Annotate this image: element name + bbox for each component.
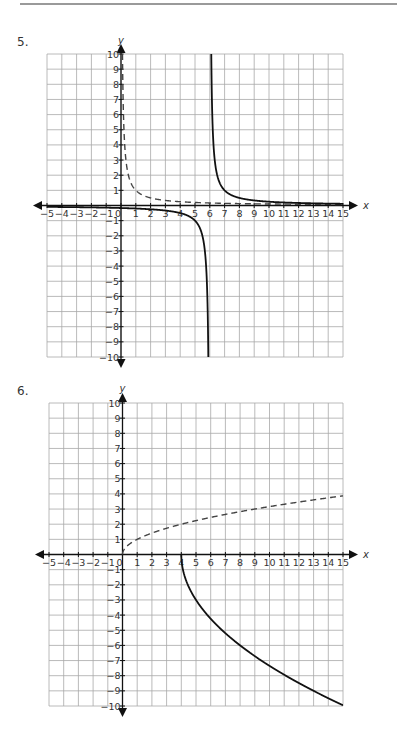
- svg-text:6: 6: [114, 458, 120, 469]
- svg-text:13: 13: [308, 557, 320, 568]
- svg-text:−6: −6: [106, 640, 120, 651]
- svg-text:5: 5: [114, 473, 120, 484]
- curves: [123, 496, 344, 705]
- svg-text:−2: −2: [86, 557, 100, 568]
- svg-text:−3: −3: [71, 557, 85, 568]
- x-axis-label: x: [362, 549, 369, 560]
- svg-text:3: 3: [114, 504, 120, 515]
- svg-text:7: 7: [114, 443, 120, 454]
- curve-dashed: [123, 496, 344, 555]
- svg-text:−1: −1: [106, 564, 120, 575]
- svg-text:4: 4: [114, 488, 120, 499]
- svg-text:12: 12: [293, 557, 305, 568]
- svg-text:−10: −10: [100, 701, 120, 712]
- svg-text:9: 9: [252, 557, 258, 568]
- svg-text:−4: −4: [106, 610, 120, 621]
- graph-problem-6: xy−5−4−3−2−10123456789101112131415−10−9−…: [0, 0, 397, 737]
- svg-text:2: 2: [149, 557, 155, 568]
- svg-text:9: 9: [114, 413, 120, 424]
- svg-text:−8: −8: [106, 670, 120, 681]
- svg-text:1: 1: [114, 534, 120, 545]
- y-axis-label: y: [119, 383, 127, 394]
- svg-text:3: 3: [164, 557, 170, 568]
- svg-text:15: 15: [337, 557, 349, 568]
- svg-text:−5: −5: [42, 557, 56, 568]
- svg-text:−4: −4: [57, 557, 71, 568]
- svg-text:1: 1: [134, 557, 140, 568]
- svg-text:8: 8: [114, 428, 120, 439]
- svg-text:14: 14: [322, 557, 334, 568]
- svg-text:5: 5: [193, 557, 199, 568]
- svg-text:6: 6: [208, 557, 214, 568]
- svg-text:2: 2: [114, 519, 120, 530]
- svg-text:8: 8: [237, 557, 243, 568]
- svg-text:11: 11: [278, 557, 290, 568]
- svg-text:10: 10: [263, 557, 275, 568]
- x-axis-right-arrow-icon: [349, 550, 358, 559]
- svg-text:−2: −2: [106, 579, 120, 590]
- svg-text:−7: −7: [106, 655, 120, 666]
- svg-text:−3: −3: [106, 594, 120, 605]
- svg-text:7: 7: [222, 557, 228, 568]
- svg-text:−9: −9: [106, 685, 120, 696]
- svg-text:10: 10: [108, 398, 120, 409]
- svg-text:−5: −5: [106, 625, 120, 636]
